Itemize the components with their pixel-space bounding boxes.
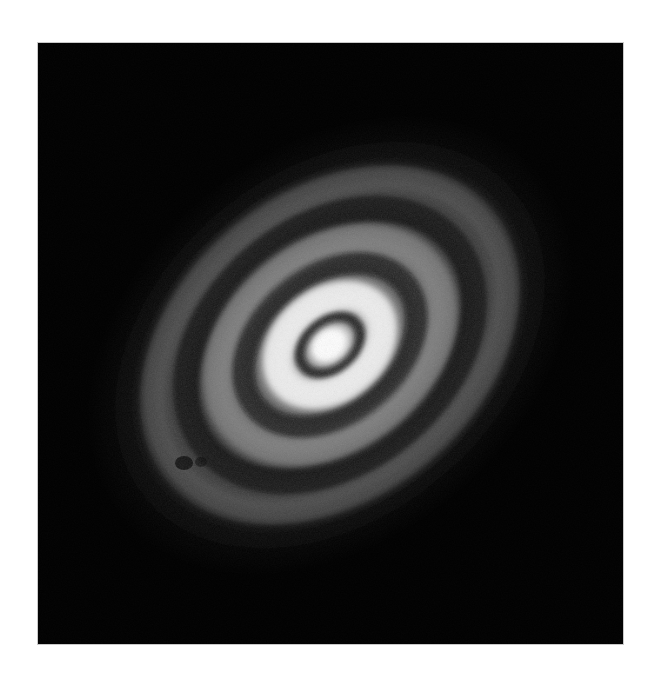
page-root bbox=[0, 0, 654, 677]
astronomical-image-panel bbox=[38, 43, 623, 644]
protoplanetary-disk-graphic bbox=[38, 43, 623, 644]
sensor-grain bbox=[38, 43, 623, 644]
